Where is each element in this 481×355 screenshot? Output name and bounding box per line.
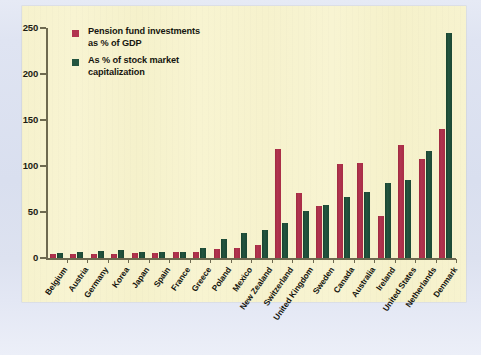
bar-gdp bbox=[255, 245, 261, 258]
bar-gdp bbox=[70, 254, 76, 258]
bar-marketcap bbox=[323, 205, 329, 258]
bar-marketcap bbox=[200, 248, 206, 258]
legend-label-gdp-line1: Pension fund investments bbox=[88, 26, 242, 38]
bar-gdp bbox=[357, 163, 363, 258]
bar-gdp bbox=[275, 149, 281, 258]
bar-gdp bbox=[419, 159, 425, 258]
bar-marketcap bbox=[282, 223, 288, 258]
bar-gdp bbox=[316, 206, 322, 258]
bar-gdp bbox=[91, 254, 97, 258]
bar-gdp bbox=[378, 216, 384, 258]
legend-entry-gdp: Pension fund investments as % of GDP bbox=[72, 26, 242, 49]
legend-entry-marketcap: As % of stock market capitalization bbox=[72, 55, 242, 78]
bar-marketcap bbox=[118, 250, 124, 258]
bar-marketcap bbox=[446, 33, 452, 258]
legend-label-marketcap-line2: capitalization bbox=[88, 67, 242, 79]
bar-marketcap bbox=[221, 239, 227, 258]
chart-screenshot: 050100150200250 BelgiumAustriaGermanyKor… bbox=[0, 0, 481, 355]
bar-marketcap bbox=[344, 197, 350, 258]
bar-marketcap bbox=[77, 252, 83, 258]
bar-gdp bbox=[296, 193, 302, 258]
bar-gdp bbox=[132, 253, 138, 258]
legend-swatch-red-icon bbox=[72, 30, 79, 37]
bar-gdp bbox=[234, 248, 240, 258]
legend-label-marketcap-line1: As % of stock market bbox=[88, 55, 242, 67]
bar-marketcap bbox=[159, 252, 165, 258]
legend-label-gdp-line2: as % of GDP bbox=[88, 38, 242, 50]
bar-gdp bbox=[193, 252, 199, 258]
bar-gdp bbox=[152, 253, 158, 258]
bar-marketcap bbox=[262, 230, 268, 258]
bar-marketcap bbox=[426, 151, 432, 258]
bar-marketcap bbox=[98, 251, 104, 258]
bar-gdp bbox=[439, 129, 445, 258]
chart-legend: Pension fund investments as % of GDP As … bbox=[72, 26, 242, 84]
legend-swatch-green-icon bbox=[72, 59, 79, 66]
bar-gdp bbox=[111, 254, 117, 258]
bar-gdp bbox=[398, 145, 404, 258]
bar-gdp bbox=[214, 249, 220, 258]
bar-marketcap bbox=[405, 180, 411, 258]
bar-marketcap bbox=[241, 233, 247, 258]
bar-marketcap bbox=[57, 253, 63, 258]
bar-marketcap bbox=[385, 183, 391, 258]
bar-gdp bbox=[50, 254, 56, 258]
bar-gdp bbox=[337, 164, 343, 258]
bar-marketcap bbox=[303, 211, 309, 258]
bar-marketcap bbox=[364, 192, 370, 258]
bar-gdp bbox=[173, 252, 179, 258]
bar-marketcap bbox=[180, 252, 186, 258]
bar-marketcap bbox=[139, 252, 145, 258]
